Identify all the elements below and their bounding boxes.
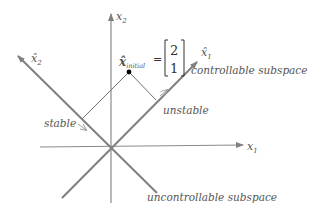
equals-sign: = <box>153 53 162 66</box>
projection-line-x2hat <box>82 72 129 119</box>
initial-state-label: x̂initial <box>118 55 145 70</box>
uncontrollable-subspace-label: uncontrollable subspace <box>147 191 277 203</box>
x1-label: x1 <box>247 140 258 155</box>
stable-label: stable <box>44 117 76 129</box>
projection-line-x1hat <box>129 72 156 100</box>
vector-entry-1: 2 <box>170 43 178 58</box>
x1hat-axis <box>62 62 197 198</box>
left-bracket <box>165 40 168 76</box>
unstable-label: unstable <box>163 104 209 116</box>
x1-axis <box>40 145 243 147</box>
vector-entry-2: 1 <box>170 61 178 76</box>
x1hat-label: x̂1 <box>201 46 212 61</box>
initial-point <box>127 70 132 75</box>
x2hat-label: x̂2 <box>31 52 42 67</box>
controllable-subspace-label: controllable subspace <box>191 64 307 76</box>
x2-label: x2 <box>116 10 127 25</box>
right-bracket <box>181 40 184 76</box>
stable-arrow-icon <box>78 124 86 130</box>
state-space-diagram: x1 x2 x̂1 x̂2 x̂initial = 2 1 controllab… <box>0 0 310 216</box>
